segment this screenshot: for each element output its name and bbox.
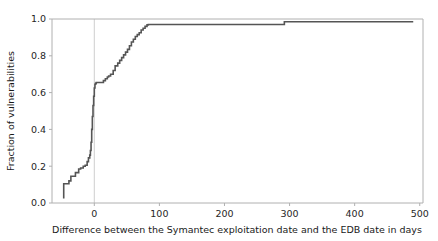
x-tick-label: 0 [91, 208, 97, 219]
x-tick-label: 200 [215, 208, 233, 219]
x-tick-label: 300 [280, 208, 298, 219]
x-axis-tick-labels: 0100200300400500 [91, 208, 429, 219]
y-tick-label: 0.4 [31, 124, 46, 135]
plot-background [52, 19, 423, 203]
y-axis-label: Fraction of vulnerabilities [5, 51, 16, 171]
y-tick-label: 0.6 [31, 87, 46, 98]
x-tick-label: 400 [346, 208, 364, 219]
x-axis-label: Difference between the Symantec exploita… [52, 224, 422, 235]
x-tick-label: 100 [150, 208, 168, 219]
y-tick-label: 0.2 [31, 161, 46, 172]
y-tick-label: 0.0 [31, 197, 46, 208]
chart-figure: 0100200300400500 0.00.20.40.60.81.0 Diff… [0, 0, 438, 241]
y-tick-label: 1.0 [31, 13, 46, 24]
x-tick-label: 500 [411, 208, 429, 219]
ecdf-plot: 0100200300400500 0.00.20.40.60.81.0 Diff… [0, 0, 438, 241]
y-tick-label: 0.8 [31, 50, 46, 61]
y-axis-tick-labels: 0.00.20.40.60.81.0 [31, 13, 46, 208]
